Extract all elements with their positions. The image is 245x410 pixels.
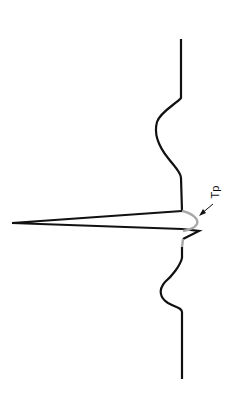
tp-label: Tp: [209, 186, 221, 199]
arrowhead-icon: [199, 209, 206, 216]
tp-segment-highlight: [182, 211, 197, 231]
t-wave-trace: [156, 39, 182, 211]
ecg-waveform-diagram: [0, 0, 245, 410]
tp-segment-lower: [182, 239, 183, 247]
p-wave-trace: [161, 247, 182, 379]
qrs-complex: [12, 211, 182, 229]
